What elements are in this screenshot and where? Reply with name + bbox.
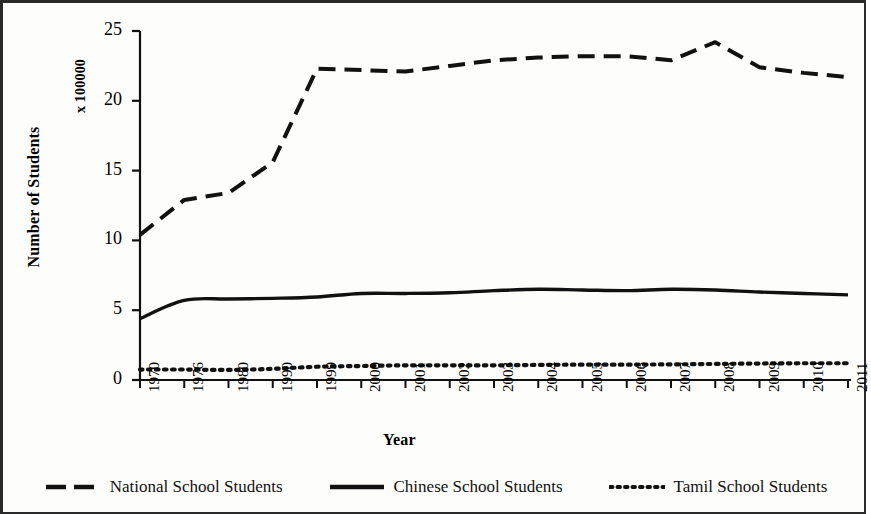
y-tick-label: 20 (88, 89, 122, 110)
chart-legend: National School StudentsChinese School S… (3, 458, 869, 514)
legend-label: Tamil School Students (674, 477, 828, 497)
x-tick-label: 2000 (367, 362, 384, 392)
x-axis-title: Year (383, 431, 416, 449)
legend-swatch-dashed-icon (45, 480, 101, 494)
y-axis-title: Number of Students (25, 82, 43, 312)
x-tick-label: 2011 (854, 363, 871, 392)
series-layer (140, 42, 848, 370)
x-tick-label: 2002 (456, 362, 473, 392)
x-tick-label: 2006 (633, 362, 650, 392)
x-tick-label: 1980 (235, 362, 252, 392)
y-axis-unit-label: x 100000 (73, 16, 89, 156)
series-line-0 (140, 42, 848, 235)
legend-swatch-dotted-icon (609, 480, 665, 494)
x-tick-label: 1999 (323, 362, 340, 392)
x-tick-label: 2007 (677, 362, 694, 392)
y-tick-label: 0 (88, 368, 122, 389)
legend-item[interactable]: Chinese School Students (329, 477, 563, 497)
plot-region: 0510152025 19701976198019901999200020012… (3, 3, 869, 458)
x-tick-label: 1970 (146, 362, 163, 392)
legend-label: National School Students (110, 477, 283, 497)
legend-label: Chinese School Students (394, 477, 563, 497)
x-tick-label: 2010 (810, 362, 827, 392)
y-tick-label: 10 (88, 228, 122, 249)
x-tick-label: 2005 (589, 362, 606, 392)
chart-canvas (3, 3, 869, 458)
x-tick-label: 2003 (500, 362, 517, 392)
y-tick-label: 25 (88, 19, 122, 40)
y-tick-marks (132, 31, 140, 380)
y-tick-label: 15 (88, 159, 122, 180)
x-tick-label: 1976 (190, 362, 207, 392)
x-tick-label: 2009 (766, 362, 783, 392)
legend-item[interactable]: National School Students (45, 477, 283, 497)
y-tick-label: 5 (88, 298, 122, 319)
legend-swatch-solid-icon (329, 480, 385, 494)
x-tick-label: 1990 (279, 362, 296, 392)
x-tick-label: 2008 (721, 362, 738, 392)
x-tick-label: 2004 (544, 362, 561, 392)
legend-item[interactable]: Tamil School Students (609, 477, 828, 497)
series-line-1 (140, 289, 848, 318)
x-tick-label: 2001 (412, 362, 429, 392)
